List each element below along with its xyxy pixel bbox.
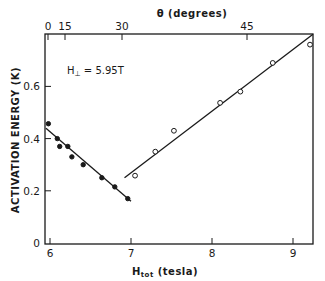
theta-tick-label: 0 <box>45 20 52 32</box>
x-tick-label: 9 <box>290 247 297 259</box>
theta-axis-ticks: 0153045 <box>45 20 254 40</box>
x-tick-label: 8 <box>209 247 216 259</box>
y-tick-label: 0.2 <box>23 185 40 197</box>
open-data-point <box>238 89 243 94</box>
filled-data-point <box>126 196 130 200</box>
theta-tick-label: 15 <box>58 20 71 32</box>
filled-data-point <box>58 144 62 148</box>
x-tick-label: 7 <box>128 247 135 259</box>
y-axis-ticks: 00.20.40.6 <box>23 80 51 249</box>
open-data-point <box>172 128 177 133</box>
y-axis-title: ACTIVATION ENERGY (K) <box>10 67 21 213</box>
x-axis-ticks: 6789 <box>47 238 297 259</box>
field-annotation: H⊥ = 5.95T <box>67 65 125 78</box>
theta-tick-label: 30 <box>115 20 128 32</box>
x-tick-label: 6 <box>47 247 54 259</box>
activation-energy-chart: 6789 00.20.40.6 0153045 θ (degrees) Htot… <box>0 0 325 281</box>
filled-data-point <box>66 144 70 148</box>
y-tick-label: 0.6 <box>23 80 40 92</box>
y-tick-label: 0.4 <box>23 133 40 145</box>
filled-data-point <box>46 122 50 126</box>
open-data-point <box>218 100 223 105</box>
open-fit-line <box>125 34 313 178</box>
filled-data-point <box>81 163 85 167</box>
open-data-point <box>270 61 275 66</box>
open-data-point <box>308 42 313 47</box>
x-axis-title: Htot (tesla) <box>132 266 198 279</box>
open-data-point <box>153 149 158 154</box>
y-tick-label: 0 <box>33 237 40 249</box>
filled-data-point <box>100 176 104 180</box>
theta-tick-label: 45 <box>240 20 253 32</box>
filled-data-point <box>55 136 59 140</box>
fit-lines <box>46 34 313 201</box>
x2-axis-title: θ (degrees) <box>157 8 228 19</box>
filled-data-point <box>70 155 74 159</box>
filled-data-point <box>113 185 117 189</box>
open-data-point <box>133 173 138 178</box>
